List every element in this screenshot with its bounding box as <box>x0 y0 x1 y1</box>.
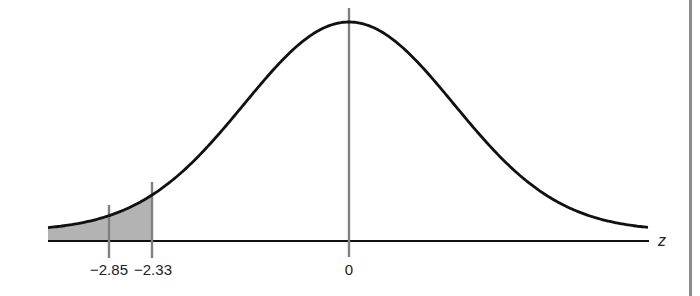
tick-label-0: 0 <box>345 261 353 278</box>
tick-label-m233: −2.33 <box>134 261 172 278</box>
tick-label-m285: −2.85 <box>90 261 128 278</box>
x-axis-label: z <box>657 232 666 249</box>
page-edge-rule <box>689 0 692 296</box>
normal-curve-chart: −2.85 −2.33 0 z <box>0 0 700 296</box>
